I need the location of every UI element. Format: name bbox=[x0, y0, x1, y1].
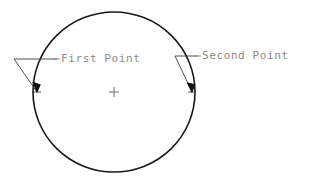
leader-diagonal-line bbox=[14, 59, 37, 92]
center-mark-icon bbox=[109, 87, 119, 97]
diagram-vector-layer: First Point Second Point bbox=[0, 0, 310, 186]
leader-first-point bbox=[14, 59, 57, 94]
annotation-label-first-point: First Point bbox=[61, 52, 140, 65]
cad-diagram-canvas: First Point Second Point bbox=[0, 0, 310, 186]
annotation-label-second-point: Second Point bbox=[202, 49, 289, 62]
